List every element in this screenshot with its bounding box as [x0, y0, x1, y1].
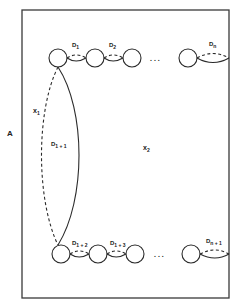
edge-top-d1-dashed — [67, 55, 86, 58]
node-top-3 — [123, 49, 141, 67]
node-bottom-1 — [52, 245, 70, 263]
node-top-2 — [86, 49, 104, 67]
node-bottom-n — [182, 245, 200, 263]
edge-bottom-d12-solid — [70, 254, 89, 257]
label-d-connector: D1 + 1 — [51, 141, 67, 149]
edge-connector-dashed — [42, 67, 59, 245]
edge-top-dn-dashed — [197, 54, 229, 59]
label-d1: D1 — [72, 42, 79, 50]
label-x2: x2 — [143, 144, 150, 153]
edge-bottom-dn1-dashed — [200, 250, 229, 254]
label-d12: D1 + 2 — [72, 240, 88, 248]
edge-connector-solid — [58, 67, 79, 245]
edge-top-d2-dashed — [104, 55, 123, 58]
ellipsis-top: . . . — [150, 55, 160, 62]
edge-top-dn-solid — [197, 58, 229, 63]
node-top-n — [179, 49, 197, 67]
label-x1: x1 — [33, 107, 40, 116]
edge-bottom-d13-dashed — [107, 251, 126, 254]
node-top-1 — [49, 49, 67, 67]
label-d2: D2 — [109, 42, 116, 50]
edge-bottom-d12-dashed — [70, 251, 89, 254]
label-dn: Dn — [209, 41, 216, 49]
label-d13: D1 + 3 — [110, 240, 126, 248]
edge-top-d1-solid — [67, 58, 86, 61]
edge-bottom-d13-solid — [107, 254, 126, 257]
label-a: A — [7, 129, 13, 138]
edge-top-d2-solid — [104, 58, 123, 61]
ellipsis-bottom: . . . — [154, 251, 164, 258]
edge-bottom-dn1-solid — [200, 254, 229, 258]
node-bottom-3 — [126, 245, 144, 263]
label-dn1: Dn + 1 — [206, 238, 222, 246]
graph-diagram: A D1 D2 Dn . . . D1 + 1 x1 x2 D1 + 2 D1 … — [0, 0, 240, 308]
node-bottom-2 — [89, 245, 107, 263]
